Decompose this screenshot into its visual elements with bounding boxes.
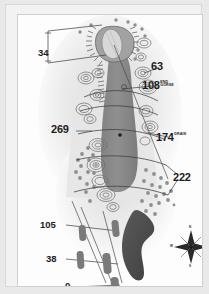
distance-label-174-value: 174 (156, 131, 174, 143)
distance-label-38: 38 (46, 254, 57, 264)
distance-label-105: 105 (40, 220, 56, 230)
aim-point-marker (118, 133, 122, 137)
distance-label-222: 222 (173, 172, 191, 183)
distance-label-63: 63 (151, 61, 163, 72)
compass-north-label: N (189, 225, 191, 229)
green (95, 26, 134, 62)
distance-note-end-gorse: ENDGORSE (160, 81, 173, 89)
distance-label-174: 174DRAIN (156, 132, 186, 143)
note-line-2: GORSE (160, 84, 173, 88)
distance-note-drain: DRAIN (174, 133, 186, 137)
map-outer-frame: N S E W 34 63 108ENDGORSE 269 174DRAIN 2… (5, 4, 202, 287)
screenshot-root: N S E W 34 63 108ENDGORSE 269 174DRAIN 2… (0, 0, 209, 294)
distance-label-0: 0 (65, 281, 70, 287)
compass-rose-graphic (174, 230, 202, 264)
compass-west-label: W (170, 244, 173, 248)
distance-label-108: 108ENDGORSE (142, 80, 174, 91)
note-line-1: DRAIN (174, 133, 186, 137)
distance-label-34: 34 (38, 48, 49, 58)
golf-hole-map-panel: N S E W 34 63 108ENDGORSE 269 174DRAIN 2… (17, 14, 203, 287)
distance-label-108-value: 108 (142, 79, 160, 91)
compass-south-label: S (189, 264, 191, 268)
distance-label-269: 269 (51, 124, 69, 135)
